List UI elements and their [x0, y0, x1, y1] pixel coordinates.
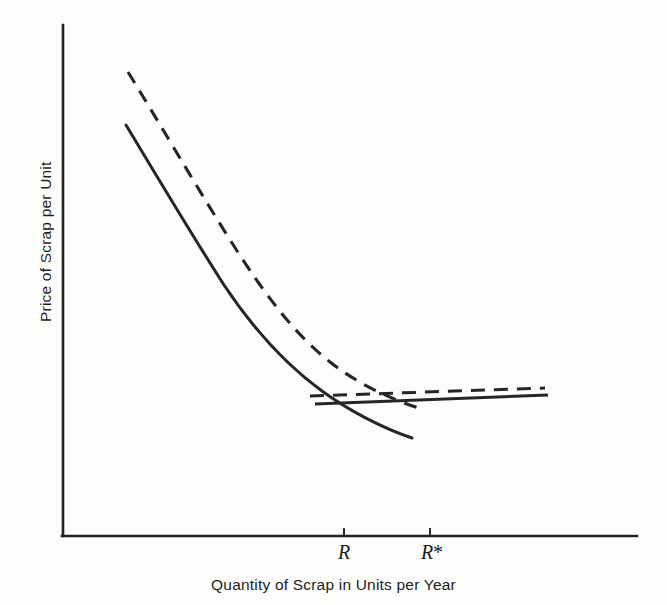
supply-line-dashed	[310, 388, 545, 396]
tick-label-R-text: R	[338, 541, 350, 563]
x-axis-label: Quantity of Scrap in Units per Year	[0, 576, 667, 594]
chart-figure: Price of Scrap per Unit Quantity of Scra…	[0, 0, 667, 605]
demand-curve-dashed	[128, 72, 425, 410]
supply-line-solid	[315, 395, 548, 404]
tick-label-R-star-text: R	[421, 541, 433, 563]
plot-area	[0, 0, 667, 605]
y-axis-label: Price of Scrap per Unit	[37, 2, 55, 322]
x-tick-label-R-star: R*	[421, 541, 443, 564]
demand-curve-solid	[126, 125, 412, 438]
tick-label-star-glyph: *	[433, 541, 443, 563]
x-tick-label-R: R	[338, 541, 350, 564]
